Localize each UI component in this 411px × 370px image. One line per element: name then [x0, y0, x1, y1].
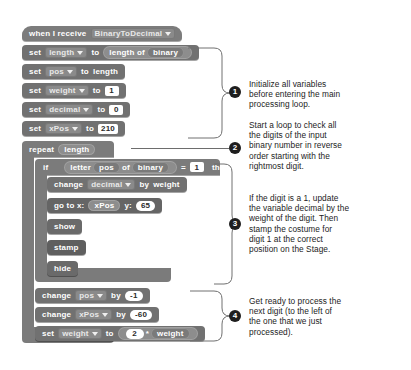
- reporter-length[interactable]: length: [58, 144, 95, 155]
- multiply-operand-a[interactable]: 2: [126, 329, 144, 339]
- repeat-header[interactable]: repeat length: [22, 141, 114, 157]
- variable-dropdown-weight[interactable]: weight: [58, 328, 102, 339]
- callout-text-1: Initialize all variables before entering…: [249, 79, 399, 110]
- script-canvas: when I receive BinaryToDecimal set lengt…: [0, 0, 411, 370]
- change-keyword: change: [54, 180, 83, 189]
- variable-dropdown-xpos[interactable]: xPos: [45, 123, 82, 134]
- decimal-value-input[interactable]: 0: [109, 105, 123, 115]
- reporter-binary[interactable]: binary: [132, 162, 169, 173]
- variable-dropdown-weight[interactable]: weight: [45, 85, 89, 96]
- broadcast-message-dropdown[interactable]: BinaryToDecimal: [91, 28, 176, 39]
- to-keyword: to: [106, 329, 114, 338]
- variable-dropdown-decimal[interactable]: decimal: [45, 104, 93, 115]
- set-keyword: set: [29, 48, 41, 57]
- chevron-down-icon: [72, 127, 78, 131]
- block-change-pos[interactable]: change pos by -1: [35, 288, 150, 303]
- block-set-weight-doubled[interactable]: set weight to 2 * weight: [35, 326, 205, 341]
- block-set-pos[interactable]: set pos to length: [22, 64, 125, 79]
- chevron-down-icon: [67, 70, 73, 74]
- by-keyword: by: [111, 291, 121, 300]
- variable-label: decimal: [49, 105, 80, 114]
- of-label: of: [122, 163, 130, 172]
- variable-label: xPos: [79, 310, 99, 319]
- stamp-label: stamp: [54, 243, 79, 252]
- variable-dropdown-pos[interactable]: pos: [45, 66, 77, 77]
- xpos-value-input[interactable]: 210: [98, 124, 118, 134]
- multiply-operand-b[interactable]: weight: [151, 328, 190, 339]
- reporter-letter-of[interactable]: letter pos of binary: [64, 161, 177, 174]
- chevron-down-icon: [77, 51, 83, 55]
- chevron-down-icon: [125, 183, 131, 187]
- callout-bullet-4: 4: [229, 310, 241, 322]
- reporter-pos[interactable]: pos: [93, 162, 120, 173]
- chevron-down-icon: [97, 294, 103, 298]
- block-change-decimal[interactable]: change decimal by weight: [47, 177, 187, 192]
- show-label: show: [54, 222, 75, 231]
- reporter-binary[interactable]: binary: [147, 47, 184, 58]
- set-keyword: set: [29, 124, 41, 133]
- by-keyword: by: [139, 180, 149, 189]
- operator-multiply[interactable]: 2 * weight: [118, 327, 198, 340]
- block-set-xpos[interactable]: set xPos to 210: [22, 121, 125, 136]
- if-header[interactable]: if letter pos of binary = 1 then: [35, 159, 220, 175]
- to-keyword: to: [81, 67, 89, 76]
- variable-label: length: [49, 48, 74, 57]
- pos-delta-input[interactable]: -1: [125, 291, 143, 301]
- block-stamp[interactable]: stamp: [47, 240, 86, 255]
- variable-dropdown-decimal[interactable]: decimal: [87, 179, 135, 190]
- callout-bullet-2: 2: [229, 142, 241, 154]
- callout-connector-1: [188, 47, 230, 139]
- callout-bullet-3: 3: [229, 218, 241, 230]
- value-length: length: [93, 67, 118, 76]
- set-keyword: set: [29, 67, 41, 76]
- variable-label: weight: [62, 329, 89, 338]
- y-value-input[interactable]: 65: [136, 201, 155, 211]
- block-when-i-receive[interactable]: when I receive BinaryToDecimal: [22, 26, 182, 41]
- xpos-delta-input[interactable]: -60: [130, 310, 152, 320]
- compare-value-input[interactable]: 1: [190, 162, 204, 172]
- block-change-xpos[interactable]: change xPos by -60: [35, 307, 159, 322]
- to-keyword: to: [91, 48, 99, 57]
- weight-value-input[interactable]: 1: [105, 86, 119, 96]
- length-of-label: length of: [109, 48, 145, 57]
- go-to-x-label: go to x:: [54, 201, 84, 210]
- variable-label: decimal: [91, 180, 122, 189]
- variable-label: xPos: [49, 124, 69, 133]
- change-keyword: change: [42, 291, 71, 300]
- reporter-xpos[interactable]: xPos: [88, 200, 120, 211]
- variable-dropdown-xpos[interactable]: xPos: [75, 309, 112, 320]
- block-hide[interactable]: hide: [47, 261, 78, 276]
- callout-connector-4: [190, 290, 232, 342]
- callout-bullet-1: 1: [229, 86, 241, 98]
- block-set-weight[interactable]: set weight to 1: [22, 83, 126, 98]
- block-go-to-xy[interactable]: go to x: xPos y: 65: [47, 198, 162, 213]
- callout-text-3: If the digit is a 1, update the variable…: [249, 193, 407, 254]
- reporter-length-of[interactable]: length of binary: [103, 46, 192, 59]
- block-set-length[interactable]: set length to length of binary: [22, 45, 199, 60]
- block-set-decimal[interactable]: set decimal to 0: [22, 102, 130, 117]
- chevron-down-icon: [79, 89, 85, 93]
- chevron-down-icon: [102, 313, 108, 317]
- broadcast-message-label: BinaryToDecimal: [95, 29, 163, 38]
- to-keyword: to: [93, 86, 101, 95]
- set-keyword: set: [42, 329, 54, 338]
- variable-dropdown-pos[interactable]: pos: [75, 290, 107, 301]
- repeat-keyword: repeat: [29, 145, 54, 154]
- change-keyword: change: [42, 310, 71, 319]
- callout-connector-2: [131, 148, 229, 149]
- hide-label: hide: [54, 264, 71, 273]
- letter-label: letter: [70, 163, 91, 172]
- if-keyword: if: [43, 163, 48, 172]
- value-weight: weight: [153, 180, 180, 189]
- if-left-arm: [35, 175, 47, 268]
- to-keyword: to: [97, 105, 105, 114]
- callout-text-2: Start a loop to check all the digits of …: [249, 120, 404, 171]
- go-to-y-label: y:: [124, 201, 132, 210]
- multiply-symbol: *: [146, 329, 149, 338]
- variable-label: weight: [49, 86, 76, 95]
- callout-text-4: Get ready to process the next digit (to …: [249, 296, 404, 337]
- set-keyword: set: [29, 105, 41, 114]
- block-show[interactable]: show: [47, 219, 82, 234]
- chevron-down-icon: [165, 32, 171, 36]
- variable-dropdown-length[interactable]: length: [45, 47, 87, 58]
